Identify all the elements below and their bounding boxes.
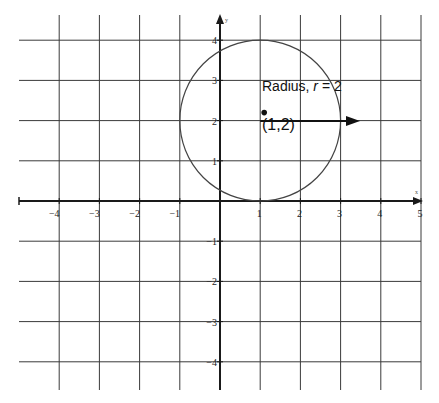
x-tick-label: 5	[418, 208, 423, 219]
y-tick-label: 2	[212, 116, 217, 127]
x-tick-label: 4	[377, 208, 382, 219]
radius-label-suffix: = 2	[318, 78, 342, 94]
radius-label: Radius, r = 2	[262, 78, 342, 94]
y-tick-label: −1	[206, 236, 217, 247]
y-tick-label: −4	[206, 357, 217, 368]
x-tick-label: 3	[337, 208, 342, 219]
x-tick-label: −2	[129, 208, 140, 219]
coordinate-plane: xy−4−3−2−1123454321−1−2−3−4	[0, 0, 439, 403]
y-tick-label: 1	[212, 156, 217, 167]
y-axis-arrow-icon	[216, 14, 224, 24]
x-tick-label: −3	[89, 208, 100, 219]
center-point	[261, 110, 267, 116]
center-label: (1,2)	[262, 116, 295, 134]
coordinate-plane-diagram: xy−4−3−2−1123454321−1−2−3−4 Radius, r = …	[0, 0, 439, 403]
x-tick-label: −1	[169, 208, 180, 219]
y-tick-label: 3	[212, 75, 217, 86]
axes	[19, 14, 423, 390]
x-tick-label: 1	[257, 208, 262, 219]
tick-labels: xy−4−3−2−1123454321−1−2−3−4	[49, 17, 423, 368]
y-tick-label: −2	[206, 276, 217, 287]
x-axis-label: x	[415, 189, 418, 195]
x-tick-label: −4	[49, 208, 60, 219]
y-tick-label: −3	[206, 317, 217, 328]
radius-label-prefix: Radius,	[262, 78, 313, 94]
arrow-head-icon	[346, 116, 360, 126]
x-tick-label: 2	[297, 208, 302, 219]
y-axis-label: y	[225, 17, 228, 23]
y-tick-label: 4	[212, 35, 217, 46]
